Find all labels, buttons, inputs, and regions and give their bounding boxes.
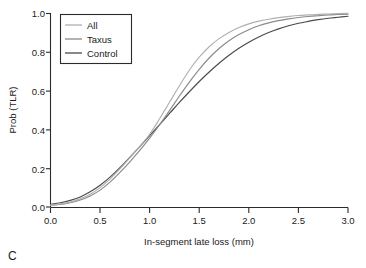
- y-axis: [46, 13, 51, 207]
- x-tick-label: 0.5: [93, 215, 106, 226]
- panel-label: C: [8, 249, 17, 263]
- x-tick-label: 2.5: [292, 215, 305, 226]
- x-axis-label: In-segment late loss (mm): [144, 236, 254, 247]
- y-tick-label: 0.8: [32, 47, 45, 58]
- legend-label-all: All: [87, 20, 98, 31]
- x-tick-label: 3.0: [341, 215, 354, 226]
- x-tick-label: 1.5: [193, 215, 206, 226]
- x-tick-label: 0.0: [44, 215, 57, 226]
- legend-label-taxus: Taxus: [87, 34, 112, 45]
- y-tick-labels: 1.0 0.8 0.6 0.4 0.2 0.0: [32, 8, 45, 213]
- x-tick-labels: 0.0 0.5 1.0 1.5 2.0 2.5 3.0: [44, 215, 355, 226]
- x-tick-label: 2.0: [242, 215, 255, 226]
- x-tick-label: 1.0: [143, 215, 156, 226]
- figure-panel-c: Prob (TLR) 1.0 0.8 0.6 0.4 0.2 0.0 0.0 0…: [0, 0, 366, 268]
- legend-label-control: Control: [87, 48, 118, 59]
- y-tick-label: 0.6: [32, 86, 45, 97]
- legend: All Taxus Control: [61, 15, 132, 64]
- y-tick-label: 0.4: [32, 125, 45, 136]
- y-tick-label: 1.0: [32, 8, 45, 19]
- x-axis: [51, 208, 349, 214]
- y-tick-label: 0.0: [32, 202, 45, 213]
- y-axis-label: Prob (TLR): [7, 87, 18, 134]
- y-tick-label: 0.2: [32, 164, 45, 175]
